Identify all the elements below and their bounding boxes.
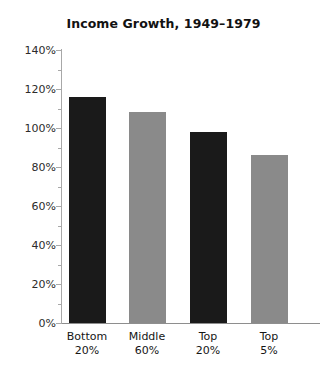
category-label-line1: Top	[260, 330, 279, 343]
category-label-line1: Top	[199, 330, 218, 343]
chart-title: Income Growth, 1949–1979	[0, 16, 327, 31]
y-axis-tick	[56, 323, 62, 324]
bar-middle-60	[129, 112, 166, 323]
bar-bottom-20	[69, 97, 106, 323]
bar-top-5	[251, 155, 288, 323]
y-axis-minor-tick	[58, 187, 62, 188]
y-axis-tick-label: 60%	[0, 201, 56, 212]
y-axis-tick	[56, 206, 62, 207]
category-label-line2: 5%	[226, 344, 312, 358]
y-axis-tick	[56, 50, 62, 51]
y-axis-tick	[56, 245, 62, 246]
y-axis-tick-label: 80%	[0, 162, 56, 173]
y-axis-tick-label: 40%	[0, 240, 56, 251]
x-axis-category-label: Top5%	[226, 330, 312, 357]
y-axis-tick-label: 120%	[0, 84, 56, 95]
y-axis-minor-tick	[58, 109, 62, 110]
category-label-line1: Bottom	[67, 330, 107, 343]
y-axis-minor-tick	[58, 265, 62, 266]
y-axis-tick	[56, 284, 62, 285]
bar-chart: Income Growth, 1949–1979 0%20%40%60%80%1…	[0, 0, 327, 372]
y-axis-minor-tick	[58, 148, 62, 149]
y-axis-tick-label: 0%	[0, 318, 56, 329]
y-axis-minor-tick	[58, 226, 62, 227]
y-axis-minor-tick	[58, 304, 62, 305]
y-axis-minor-tick	[58, 70, 62, 71]
y-axis-tick	[56, 167, 62, 168]
y-axis-tick-label: 100%	[0, 123, 56, 134]
category-label-line1: Middle	[129, 330, 165, 343]
bar-top-20	[190, 132, 227, 323]
y-axis-tick-label: 140%	[0, 45, 56, 56]
x-axis-line	[61, 323, 320, 324]
y-axis-tick	[56, 128, 62, 129]
y-axis-tick-label: 20%	[0, 279, 56, 290]
y-axis-tick	[56, 89, 62, 90]
